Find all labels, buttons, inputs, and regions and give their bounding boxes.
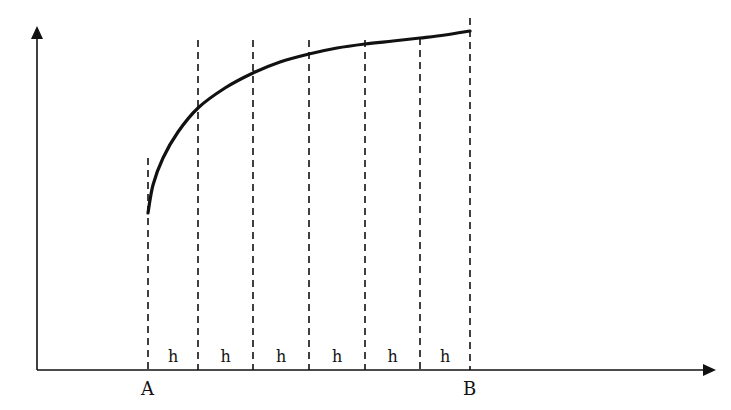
step-label-h: h (168, 347, 178, 366)
step-label-h: h (276, 347, 286, 366)
step-label-h: h (332, 347, 342, 366)
x-axis-arrow-icon (703, 364, 716, 376)
step-label-h: h (440, 347, 450, 366)
diagram-canvas: hhhhhh A B (0, 0, 731, 410)
partition-lines (148, 18, 470, 370)
point-label-a: A (140, 378, 155, 399)
step-label-h: h (388, 347, 398, 366)
y-axis-arrow-icon (31, 26, 43, 39)
point-label-b: B (463, 378, 476, 399)
step-label-h: h (221, 347, 231, 366)
